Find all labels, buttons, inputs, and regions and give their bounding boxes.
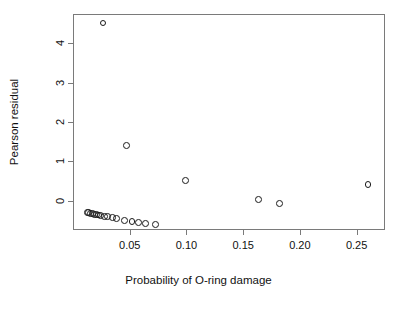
data-point — [135, 219, 142, 226]
y-axis-title: Pearson residual — [8, 79, 20, 165]
data-point — [113, 215, 120, 222]
y-tick-label: 2 — [54, 119, 66, 125]
data-point — [182, 177, 189, 184]
y-tick-mark — [68, 161, 73, 162]
data-point — [129, 218, 136, 225]
x-tick-label: 0.25 — [346, 239, 367, 251]
y-tick-label: 1 — [54, 158, 66, 164]
x-tick-label: 0.15 — [232, 239, 253, 251]
y-tick-label: 0 — [54, 197, 66, 203]
data-point — [142, 220, 149, 227]
data-point — [276, 200, 283, 207]
x-tick-label: 0.10 — [176, 239, 197, 251]
y-tick-mark — [68, 43, 73, 44]
y-tick-mark — [68, 83, 73, 84]
y-tick-mark — [68, 122, 73, 123]
data-point — [152, 221, 159, 228]
y-tick-label: 4 — [54, 40, 66, 46]
x-axis-title: Probability of O-ring damage — [0, 274, 397, 286]
x-tick-label: 0.05 — [119, 239, 140, 251]
x-tick-mark — [357, 230, 358, 235]
data-point — [255, 196, 262, 203]
scatter-plot-figure: 0.050.100.150.200.25 01234 Probability o… — [0, 0, 397, 310]
plot-area-frame — [73, 14, 385, 230]
x-tick-mark — [186, 230, 187, 235]
data-point — [121, 217, 128, 224]
x-tick-mark — [300, 230, 301, 235]
x-tick-label: 0.20 — [289, 239, 310, 251]
data-point — [123, 142, 130, 149]
y-tick-mark — [68, 201, 73, 202]
x-tick-mark — [130, 230, 131, 235]
y-tick-label: 3 — [54, 80, 66, 86]
x-tick-mark — [243, 230, 244, 235]
